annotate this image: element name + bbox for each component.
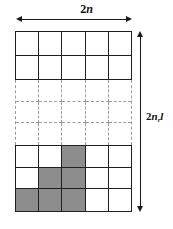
grid-cell <box>16 56 39 80</box>
grid-cell <box>16 102 39 124</box>
grid-cell <box>86 102 109 124</box>
grid-cell <box>62 32 85 56</box>
grid-cell <box>39 56 62 80</box>
grid-row <box>16 123 131 145</box>
figure-canvas: 2n 2nrl <box>0 0 173 229</box>
height-arrow <box>140 31 142 212</box>
grid-cell <box>86 189 109 211</box>
grid-cell <box>62 123 85 145</box>
grid-cell <box>16 32 39 56</box>
grid-row <box>16 56 131 80</box>
width-label: 2n <box>0 2 173 17</box>
grid-cell <box>16 168 39 190</box>
grid-cell <box>16 123 39 145</box>
height-label: 2nrl <box>146 110 163 124</box>
grid-cell <box>86 56 109 80</box>
grid-cell-shaded <box>39 189 62 211</box>
top-grid-rows <box>16 32 131 79</box>
width-arrow <box>16 19 132 21</box>
grid-cell <box>16 146 39 168</box>
grid-cell <box>86 32 109 56</box>
grid-cell <box>16 80 39 102</box>
bottom-grid-rows <box>16 146 131 211</box>
grid-row <box>16 80 131 102</box>
grid-cell <box>62 80 85 102</box>
grid-cell-shaded <box>62 168 85 190</box>
arrow-right-head-icon <box>126 16 132 22</box>
grid-cell-shaded <box>62 146 85 168</box>
grid-cell-shaded <box>39 168 62 190</box>
grid-cell <box>62 102 85 124</box>
grid-cell <box>39 102 62 124</box>
height-label-trailing: l <box>160 110 163 122</box>
grid-cell <box>39 123 62 145</box>
grid-row <box>16 146 131 168</box>
grid-row <box>16 32 131 56</box>
grid-cell-shaded <box>16 189 39 211</box>
grid-cell <box>109 56 131 80</box>
grid-cell <box>109 80 131 102</box>
grid-cell <box>62 56 85 80</box>
width-arrow-shaft <box>20 19 128 20</box>
grid-cell <box>109 123 131 145</box>
arrow-down-head-icon <box>137 206 143 212</box>
grid-cell <box>109 189 131 211</box>
top-grid-block <box>15 31 132 80</box>
width-label-symbol: n <box>86 2 93 16</box>
grid-row <box>16 189 131 211</box>
grid-cell <box>39 146 62 168</box>
grid-cell <box>86 123 109 145</box>
grid-cell <box>86 80 109 102</box>
height-arrow-shaft <box>140 35 141 208</box>
grid-cell <box>109 146 131 168</box>
bottom-grid-block <box>15 145 132 212</box>
middle-grid-block-dashed <box>15 80 132 145</box>
grid-cell <box>109 102 131 124</box>
grid-row <box>16 102 131 124</box>
grid-cell <box>109 32 131 56</box>
grid-row <box>16 168 131 190</box>
grid-cell-shaded <box>62 189 85 211</box>
grid-cell <box>86 146 109 168</box>
grid-cell <box>86 168 109 190</box>
grid-cell <box>39 32 62 56</box>
grid-cell <box>109 168 131 190</box>
grid-cell <box>39 80 62 102</box>
middle-grid-rows <box>16 80 131 145</box>
